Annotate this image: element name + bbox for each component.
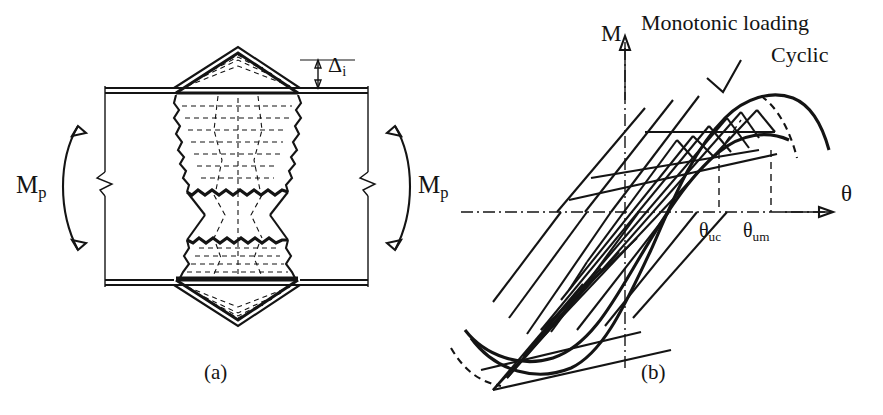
label-monotonic-loading: Monotonic loading: [641, 12, 809, 34]
moment-arrow-left: [63, 126, 86, 250]
label-delta: Δi: [328, 54, 346, 79]
hysteresis-loops: [481, 96, 777, 390]
beam-left-cut-line: [97, 86, 112, 287]
web-buckle-waist: [187, 192, 288, 240]
cyclic-leader-line: [707, 60, 741, 92]
web-upper-contour-lines: [182, 96, 292, 190]
moment-arrow-right: [387, 126, 410, 250]
label-axis-m: M: [601, 22, 621, 45]
label-axis-theta: θ: [841, 182, 852, 205]
panel-b-hysteresis: M θ Monotonic loading Cyclic θuc θum (b): [441, 0, 883, 415]
beam-right-cut-line: [360, 86, 375, 287]
label-theta-um-subscript: um: [753, 229, 770, 244]
label-moment-left-subscript: p: [38, 183, 46, 202]
label-moment-left: Mp: [16, 172, 47, 201]
label-theta-uc: θuc: [699, 220, 721, 243]
label-cyclic: Cyclic: [771, 44, 828, 66]
caption-panel-b: (b): [641, 362, 666, 383]
web-lower-contour-lines: [187, 242, 288, 276]
label-moment-right-base: M: [418, 171, 440, 198]
panel-a-plastic-hinge: Mp Mp Δi (a): [0, 0, 441, 415]
bottom-flange-buckle-outline: [174, 280, 300, 326]
caption-panel-a: (a): [204, 362, 227, 383]
label-theta-um: θum: [743, 220, 770, 243]
label-delta-subscript: i: [342, 63, 346, 79]
top-flange-buckle-outline: [174, 47, 300, 93]
figure-container: Mp Mp Δi (a): [0, 0, 883, 415]
panel-a-drawing: [0, 0, 441, 415]
label-theta-uc-subscript: uc: [709, 229, 722, 244]
